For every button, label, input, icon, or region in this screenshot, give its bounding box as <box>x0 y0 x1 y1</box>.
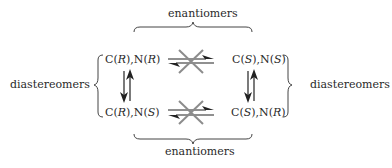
top-brace <box>134 22 252 32</box>
right-equilibrium-arrow-icon <box>244 69 258 103</box>
bottom-cross-out-icon <box>179 101 203 124</box>
left-brace <box>94 55 103 117</box>
left-equilibrium-arrow-icon <box>120 69 134 103</box>
diagram-graphics <box>0 0 392 168</box>
top-cross-out-icon <box>179 50 203 73</box>
bottom-brace <box>134 134 252 144</box>
right-brace <box>283 55 292 117</box>
